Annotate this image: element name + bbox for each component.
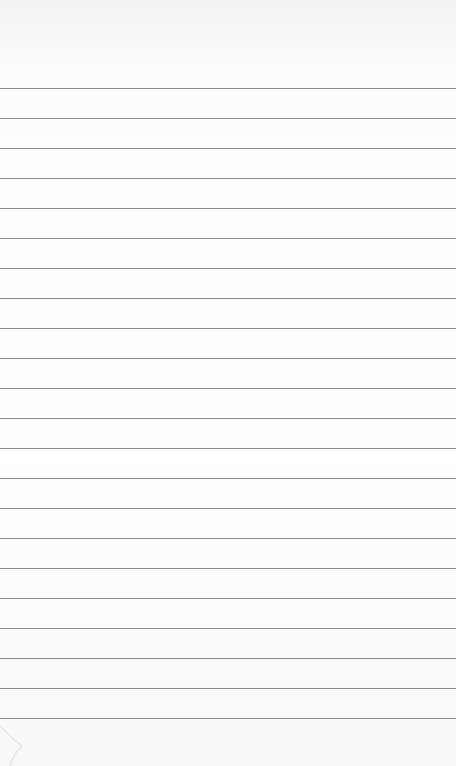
ruled-line — [0, 568, 456, 569]
ruled-line — [0, 208, 456, 209]
lined-paper — [0, 0, 456, 766]
ruled-line — [0, 238, 456, 239]
ruled-line — [0, 388, 456, 389]
ruled-line — [0, 358, 456, 359]
ruled-line — [0, 688, 456, 689]
ruled-line — [0, 118, 456, 119]
ruled-line — [0, 478, 456, 479]
ruled-line — [0, 298, 456, 299]
ruled-line — [0, 538, 456, 539]
ruled-line — [0, 88, 456, 89]
ruled-line — [0, 328, 456, 329]
ruled-line — [0, 718, 456, 719]
ruled-line — [0, 268, 456, 269]
curled-corner — [0, 716, 40, 766]
ruled-line — [0, 628, 456, 629]
ruled-line — [0, 178, 456, 179]
ruled-line — [0, 508, 456, 509]
ruled-line — [0, 598, 456, 599]
ruled-line — [0, 148, 456, 149]
ruled-line — [0, 418, 456, 419]
ruled-line — [0, 448, 456, 449]
ruled-line — [0, 658, 456, 659]
